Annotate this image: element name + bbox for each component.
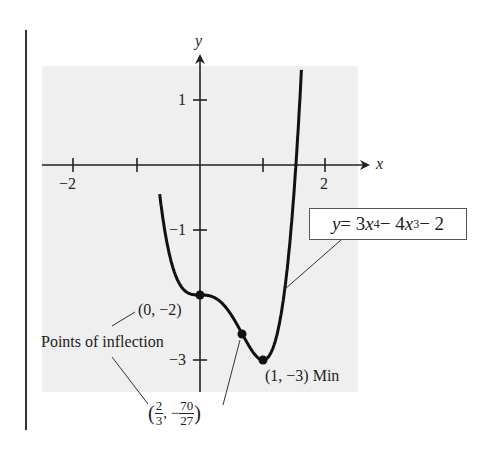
inflection-point-a	[196, 291, 205, 300]
minimum-point-label: (1, −3) Min	[265, 368, 339, 384]
fraction-y: 7027	[179, 399, 194, 427]
fraction-x: 23	[155, 399, 164, 427]
inflection-point-b-label: ( 23 , − 7027 )	[148, 399, 201, 427]
x-tick-label-2: 2	[320, 176, 328, 192]
x-tick-label-neg2: −2	[59, 176, 76, 192]
inflection-point-b	[238, 330, 247, 339]
y-tick-label-neg1: −1	[169, 222, 186, 238]
x-axis-label: x	[376, 156, 383, 172]
y-tick-label-neg3: −3	[169, 352, 186, 368]
equation-box: y = 3x4 − 4x3 − 2	[309, 208, 467, 240]
y-axis-label: y	[195, 33, 202, 49]
points-of-inflection-label: Points of inflection	[41, 334, 164, 350]
y-tick-label-1: 1	[178, 92, 186, 108]
inflection-point-a-label: (0, −2)	[138, 302, 182, 318]
minimum-point	[259, 356, 268, 365]
